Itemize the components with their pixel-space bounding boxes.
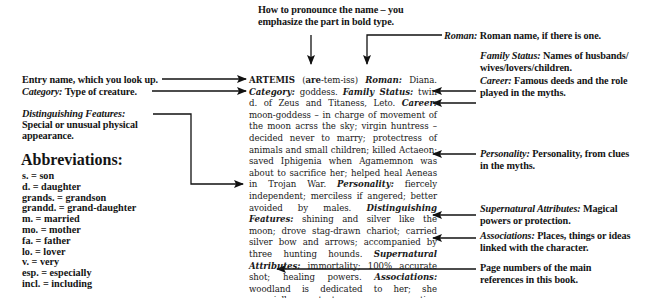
entry-pron-stress: are xyxy=(306,75,321,85)
abbreviation-item: d. = daughter xyxy=(22,182,136,193)
annotation-category-label: Category: xyxy=(22,86,62,97)
annotation-distinguishing-label: Distinguishing Features: xyxy=(22,108,125,119)
abbreviations-title: Abbreviations: xyxy=(21,151,123,168)
annotation-associations-label: Associations: xyxy=(480,230,535,241)
annotation-roman-text: Roman name, if there is one. xyxy=(477,30,601,41)
annotation-associations-line2: linked with the character. xyxy=(480,242,630,254)
entry-category-value: goddess. xyxy=(295,87,343,97)
annotation-category: Category: Type of creature. xyxy=(22,86,137,98)
sample-entry: ARTEMIS (are-tem-iss) Roman: Diana. Cate… xyxy=(249,75,437,298)
annotation-family-line2: wives/lovers/children. xyxy=(480,62,628,74)
annotation-page-line2: references in this book. xyxy=(480,274,591,286)
annotation-supernatural: Supernatural Attributes: Magical powers … xyxy=(480,203,617,226)
abbreviations-list: s. = son d. = daughter grands. = grandso… xyxy=(22,171,136,290)
annotation-personality-text: Personality, from clues xyxy=(530,148,629,159)
annotation-family-text: Names of husbands/ xyxy=(541,50,629,61)
annotation-associations-text: Places, things or ideas xyxy=(535,230,631,241)
annotation-pronunciation-line2: emphasize the part in bold type. xyxy=(258,16,404,28)
annotation-family-status: Family Status: Names of husbands/ wives/… xyxy=(480,50,628,73)
annotation-page: Page numbers of the main references in t… xyxy=(480,262,591,285)
annotation-family-label: Family Status: xyxy=(480,50,541,61)
annotation-page-line1: Page numbers of the main xyxy=(480,262,591,274)
annotation-entry-name: Entry name, which you look up. xyxy=(22,74,158,86)
annotation-pronunciation-line1: How to pronounce the name – you xyxy=(258,4,404,16)
annotation-distinguishing-line1: Special or unusual physical xyxy=(22,119,138,130)
entry-category-label: Category: xyxy=(249,87,295,97)
entry-career-value: moon-goddess – in charge of movement of … xyxy=(249,110,437,190)
entry-career-label: Career: xyxy=(402,98,437,108)
entry-pron-rest: -tem-iss) xyxy=(321,75,365,85)
entry-roman-label: Roman: xyxy=(365,75,402,85)
annotation-roman: Roman: Roman name, if there is one. xyxy=(444,30,601,42)
abbreviation-item: incl. = including xyxy=(22,279,136,290)
annotation-career-label: Career: xyxy=(480,75,512,86)
annotation-personality: Personality: Personality, from clues in … xyxy=(480,148,629,171)
annotation-personality-label: Personality: xyxy=(480,148,530,159)
annotation-supernatural-text: Magical xyxy=(581,203,618,214)
annotation-career-text: Famous deeds and the role xyxy=(512,75,628,86)
annotation-supernatural-line2: powers or protection. xyxy=(480,215,617,227)
annotation-supernatural-label: Supernatural Attributes: xyxy=(480,203,581,214)
entry-personality-label: Personality: xyxy=(337,179,394,189)
entry-pron-open: ( xyxy=(295,75,306,85)
annotation-career: Career: Famous deeds and the role played… xyxy=(480,75,627,98)
annotation-career-line2: played in the myths. xyxy=(480,87,627,99)
annotation-associations: Associations: Places, things or ideas li… xyxy=(480,230,630,253)
entry-family-label: Family Status: xyxy=(343,87,413,97)
annotation-pronunciation: How to pronounce the name – you emphasiz… xyxy=(258,4,404,27)
annotation-distinguishing: Distinguishing Features: Special or unus… xyxy=(22,108,138,142)
entry-associations-value: woodland is dedicated to her; she especi… xyxy=(249,284,437,298)
entry-roman-value: Diana. xyxy=(402,75,437,85)
annotation-personality-line2: in the myths. xyxy=(480,160,629,172)
annotation-category-text: Type of creature. xyxy=(62,86,136,97)
annotation-roman-label: Roman: xyxy=(444,30,477,41)
annotation-distinguishing-line2: appearance. xyxy=(22,130,138,141)
abbreviation-item: fa. = father xyxy=(22,236,136,247)
entry-associations-label: Associations: xyxy=(374,272,437,282)
entry-name: ARTEMIS xyxy=(249,75,295,85)
